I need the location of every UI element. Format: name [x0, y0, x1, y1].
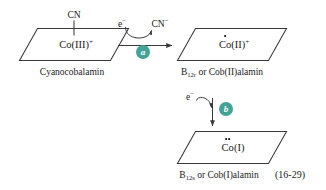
equation-number: (16-29) — [275, 170, 305, 180]
step-badge-a: a — [136, 45, 150, 59]
cobalt-iii-label: Co(III)+ — [59, 40, 93, 51]
cobalamin-reduction-scheme: CN Co(III)+ Cyanocobalamin e− CN− a Co(I… — [0, 0, 326, 190]
cobalt-ii-radical-label: Co(II)+ — [219, 40, 249, 51]
electron-transfer-curve-step-b — [197, 97, 212, 107]
caption-cyanocobalamin: Cyanocobalamin — [40, 68, 104, 78]
caption-cob2alamin: B12r or Cob(II)alamin — [181, 68, 263, 78]
lone-pair-dots — [224, 137, 231, 140]
cobalt-ii-radical-dot: Co — [219, 40, 231, 51]
electron-transfer-curve-step-a — [125, 27, 151, 38]
radical-dot-single — [223, 34, 226, 37]
caption-cob1alamin: B12s or Cob(I)alamin — [179, 171, 258, 181]
step-badge-b: b — [219, 102, 233, 116]
cobalt-i-label: Co(I) — [222, 143, 245, 154]
electron-label-step-b: e− — [186, 93, 194, 103]
cyanide-ion-label: CN− — [151, 20, 168, 30]
cobalt-i-lone-pair: Co — [222, 143, 234, 154]
axial-cyanide-label: CN — [67, 11, 80, 21]
electron-label-step-a: e− — [118, 20, 126, 30]
